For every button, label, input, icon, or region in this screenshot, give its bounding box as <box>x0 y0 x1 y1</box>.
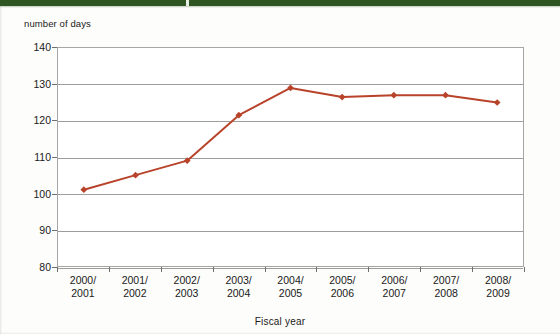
scan-artifact-left <box>0 6 2 334</box>
y-tick-label: 100 <box>5 188 51 200</box>
series-line <box>84 88 497 190</box>
data-point-marker <box>442 92 449 99</box>
banner-shadow <box>0 6 560 8</box>
x-tick-label: 2008/2009 <box>468 274 528 299</box>
x-tick-mark <box>57 267 58 272</box>
data-series-layer <box>58 48 523 266</box>
chart-page: number of days 8090100110120130140 2000/… <box>0 0 560 334</box>
x-tick-label-line: 2009 <box>468 287 528 300</box>
x-tick-mark <box>420 267 421 272</box>
x-tick-mark <box>161 267 162 272</box>
plot-area <box>57 47 524 267</box>
x-tick-label-line: 2008/ <box>468 274 528 287</box>
y-tick-label: 140 <box>5 41 51 53</box>
y-tick-label: 90 <box>5 224 51 236</box>
y-tick-label: 80 <box>5 261 51 273</box>
data-point-marker <box>80 186 87 193</box>
y-axis-title: number of days <box>24 18 91 29</box>
x-tick-mark <box>213 267 214 272</box>
gridline <box>58 268 523 269</box>
data-point-marker <box>390 92 397 99</box>
x-tick-mark <box>524 267 525 272</box>
x-tick-mark <box>472 267 473 272</box>
data-point-marker <box>339 94 346 101</box>
y-tick-label: 130 <box>5 78 51 90</box>
x-tick-mark <box>316 267 317 272</box>
data-point-marker <box>494 99 501 106</box>
y-axis-tick-labels: 8090100110120130140 <box>3 47 51 267</box>
data-point-marker <box>132 172 139 179</box>
y-tick-label: 110 <box>5 151 51 163</box>
x-axis-title: Fiscal year <box>0 316 560 327</box>
y-tick-label: 120 <box>5 114 51 126</box>
x-tick-mark <box>109 267 110 272</box>
x-tick-mark <box>368 267 369 272</box>
x-tick-mark <box>265 267 266 272</box>
